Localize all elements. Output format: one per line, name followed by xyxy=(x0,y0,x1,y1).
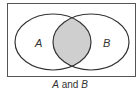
caption-set-a: A xyxy=(52,79,59,90)
diagram-caption: A and B xyxy=(0,77,140,93)
set-b-label: B xyxy=(103,37,110,49)
caption-set-b: B xyxy=(81,79,88,90)
set-a-label: A xyxy=(34,37,42,49)
caption-conjunction: and xyxy=(59,79,81,90)
